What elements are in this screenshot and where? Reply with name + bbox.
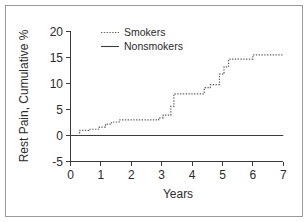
figure-container: 20 15 10 5 0 -5 0 1 2 3 4 5 6 7 Rest Pai…: [0, 0, 308, 222]
x-tick-label-1: 1: [98, 168, 105, 182]
x-axis-ticks: [71, 162, 284, 167]
legend-label-smokers: Smokers: [124, 26, 165, 38]
chart-plot-area: 20 15 10 5 0 -5 0 1 2 3 4 5 6 7 Rest Pai…: [0, 0, 308, 222]
x-axis-title: Years: [163, 187, 193, 201]
x-tick-label-7: 7: [280, 168, 287, 182]
x-tick-label-6: 6: [250, 168, 257, 182]
legend-label-nonsmokers: Nonsmokers: [124, 40, 183, 52]
y-tick-label-20: 20: [50, 25, 64, 39]
chart-legend: Smokers Nonsmokers: [101, 26, 183, 52]
x-tick-label-3: 3: [158, 168, 165, 182]
y-axis-ticks: [66, 32, 71, 162]
y-tick-label-15: 15: [50, 51, 64, 65]
x-tick-label-0: 0: [67, 168, 74, 182]
x-tick-label-5: 5: [219, 168, 226, 182]
y-tick-label-0: 0: [56, 129, 63, 143]
y-axis-tick-labels: 20 15 10 5 0 -5: [50, 25, 64, 169]
y-tick-label-minus5: -5: [52, 155, 63, 169]
x-tick-label-4: 4: [189, 168, 196, 182]
x-tick-label-2: 2: [128, 168, 135, 182]
y-tick-label-10: 10: [50, 77, 64, 91]
y-tick-label-5: 5: [56, 103, 63, 117]
series-line-smokers: [71, 55, 284, 136]
y-axis-title: Rest Pain, Cumulative %: [17, 29, 31, 162]
x-axis-tick-labels: 0 1 2 3 4 5 6 7: [67, 168, 287, 182]
